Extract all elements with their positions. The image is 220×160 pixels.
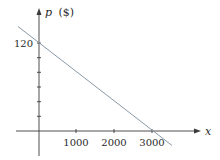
y-axis-var: p — [45, 6, 52, 19]
x-axis-arrow-icon — [194, 129, 201, 134]
y-axis-label: p ($) — [45, 6, 74, 19]
y-axis-arrow-icon — [37, 8, 42, 15]
x-axis: 1000 2000 3000 x — [16, 125, 212, 148]
y-axis-unit: ($) — [59, 6, 75, 19]
x-tick-label-1000: 1000 — [63, 137, 88, 148]
y-tick-label-120: 120 — [14, 38, 33, 49]
demand-line — [18, 27, 172, 146]
demand-line-chart: 1000 2000 3000 x 120 p ($) — [0, 0, 220, 160]
x-tick-label-3000: 3000 — [139, 137, 164, 148]
x-tick-label-2000: 2000 — [101, 137, 126, 148]
y-axis: 120 p ($) — [14, 6, 74, 156]
x-axis-label: x — [205, 125, 212, 138]
